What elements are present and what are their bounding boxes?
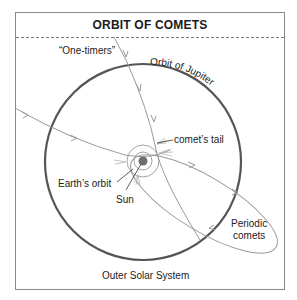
label-sun: Sun	[116, 194, 134, 205]
comet-tail	[159, 149, 173, 156]
label-outer-solar-system: Outer Solar System	[102, 270, 189, 281]
comet-tail	[114, 160, 126, 164]
label-periodic-line2: comets	[233, 230, 265, 241]
label-periodic-line1: Periodic	[231, 218, 267, 229]
earths-orbit-leader	[117, 169, 133, 182]
arrow-icon	[209, 225, 215, 230]
arrow-icon	[151, 115, 156, 122]
label-earths-orbit: Earth’s orbit	[58, 178, 111, 189]
label-comets-tail: comet’s tail	[174, 134, 224, 145]
arrow-icon	[22, 112, 28, 118]
label-orbit-of-jupiter-text: Orbit of Jupiter	[150, 56, 217, 88]
orbit-diagram: “One-timers” Orbit of Jupiter comet’s ta…	[0, 0, 297, 300]
label-orbit-of-jupiter: Orbit of Jupiter	[150, 56, 217, 88]
sun-icon	[139, 157, 148, 166]
label-one-timers: “One-timers”	[59, 45, 115, 56]
arrow-icon	[188, 162, 195, 168]
arrow-icon	[70, 135, 77, 141]
one-timer-path-left	[15, 108, 170, 157]
